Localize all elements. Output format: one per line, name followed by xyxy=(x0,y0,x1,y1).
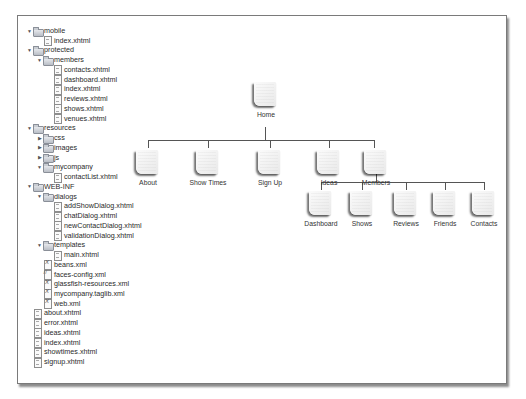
tree-item-label: resources xyxy=(44,123,76,132)
tree-item-label: members xyxy=(54,55,84,64)
tree-folder-row[interactable]: ▼mobile xyxy=(26,26,65,36)
node-contacts: Contacts xyxy=(459,189,509,227)
tree-file-row[interactable]: error.xhtml xyxy=(33,318,78,328)
file-icon xyxy=(53,173,62,181)
tree-folder-row[interactable]: ▼WEB-INF xyxy=(26,181,74,191)
disclosure-expanded-icon[interactable]: ▼ xyxy=(26,27,33,35)
file-icon xyxy=(53,212,62,220)
disclosure-expanded-icon[interactable]: ▼ xyxy=(26,46,33,54)
tree-file-row[interactable]: faces-config.xml xyxy=(43,269,106,279)
node-home: Home xyxy=(241,80,291,118)
file-icon xyxy=(53,202,62,210)
tree-file-row[interactable]: chatDialog.xhtml xyxy=(53,211,117,221)
tree-file-row[interactable]: validationDialog.xhtml xyxy=(53,230,134,240)
node-show-times: Show Times xyxy=(183,148,233,186)
disclosure-collapsed-icon[interactable]: ▶ xyxy=(36,134,43,142)
page-icon xyxy=(432,189,458,217)
tree-file-row[interactable]: main.xhtml xyxy=(53,250,99,260)
node-ideas: Ideas xyxy=(304,148,354,186)
tree-file-row[interactable]: signup.xhtml xyxy=(33,357,84,367)
connector-line xyxy=(374,140,375,148)
file-icon xyxy=(53,65,62,73)
tree-file-row[interactable]: ideas.xhtml xyxy=(33,327,80,337)
tree-file-row[interactable]: about.xhtml xyxy=(33,308,81,318)
tree-file-row[interactable]: glassfish-resources.xml xyxy=(43,279,129,289)
page-icon xyxy=(195,148,221,176)
node-about: About xyxy=(123,148,173,186)
tree-folder-row[interactable]: ▼dialogs xyxy=(36,191,77,201)
tree-item-label: beans.xml xyxy=(54,260,87,269)
tree-file-row[interactable]: addShowDialog.xhtml xyxy=(53,201,134,211)
tree-folder-row[interactable]: ▶images xyxy=(36,142,77,152)
file-icon xyxy=(53,85,62,93)
tree-item-label: web.xml xyxy=(54,299,80,308)
tree-file-row[interactable]: dashboard.xhtml xyxy=(53,74,117,84)
node-label: Shows xyxy=(352,220,372,227)
tree-file-row[interactable]: beans.xml xyxy=(43,259,87,269)
tree-folder-row[interactable]: ▼mycompany xyxy=(36,162,93,172)
tree-file-row[interactable]: reviews.xhtml xyxy=(53,94,108,104)
tree-item-label: mycompany xyxy=(54,162,93,171)
tree-item-label: templates xyxy=(54,240,85,249)
disclosure-expanded-icon[interactable]: ▼ xyxy=(36,56,43,64)
tree-item-label: chatDialog.xhtml xyxy=(64,211,117,220)
tree-folder-row[interactable]: ▼resources xyxy=(26,123,76,133)
node-label: Contacts xyxy=(471,220,498,227)
tree-file-row[interactable]: shows.xhtml xyxy=(53,103,104,113)
tree-file-row[interactable]: web.xml xyxy=(43,298,80,308)
tree-file-row[interactable]: venues.xhtml xyxy=(53,113,106,123)
file-icon xyxy=(53,104,62,112)
file-icon xyxy=(33,348,42,356)
tree-folder-row[interactable]: ▼templates xyxy=(36,240,85,250)
disclosure-expanded-icon[interactable]: ▼ xyxy=(36,163,43,171)
disclosure-collapsed-icon[interactable]: ▶ xyxy=(36,153,43,161)
connector-line xyxy=(148,140,149,148)
node-label: Friends xyxy=(434,220,457,227)
disclosure-collapsed-icon[interactable]: ▶ xyxy=(36,143,43,151)
tree-folder-row[interactable]: ▼members xyxy=(36,55,84,65)
xml-file-icon xyxy=(43,270,52,278)
disclosure-expanded-icon[interactable]: ▼ xyxy=(36,241,43,249)
tree-item-label: contacts.xhtml xyxy=(64,65,110,74)
folder-icon xyxy=(33,124,42,132)
tree-folder-row[interactable]: ▶js xyxy=(36,152,59,162)
page-icon xyxy=(471,189,497,217)
tree-item-label: WEB-INF xyxy=(44,182,74,191)
xml-file-icon xyxy=(43,280,52,288)
page-icon xyxy=(257,148,283,176)
tree-item-label: addShowDialog.xhtml xyxy=(64,201,134,210)
disclosure-expanded-icon[interactable]: ▼ xyxy=(36,192,43,200)
tree-folder-row[interactable]: ▶css xyxy=(36,133,65,143)
tree-file-row[interactable]: contactList.xhtml xyxy=(53,172,118,182)
node-label: About xyxy=(139,179,157,186)
node-label: Sign Up xyxy=(258,179,282,186)
tree-item-label: faces-config.xml xyxy=(54,270,106,279)
tree-item-label: glassfish-resources.xml xyxy=(54,279,129,288)
connector-line xyxy=(148,140,375,141)
tree-item-label: mobile xyxy=(44,26,65,35)
disclosure-expanded-icon[interactable]: ▼ xyxy=(26,124,33,132)
file-icon xyxy=(33,309,42,317)
tree-file-row[interactable]: index.xhtml xyxy=(33,337,80,347)
tree-file-row[interactable]: showtimes.xhtml xyxy=(33,347,97,357)
tree-file-row[interactable]: contacts.xhtml xyxy=(53,64,110,74)
tree-file-row[interactable]: index.xhtml xyxy=(43,35,90,45)
tree-file-row[interactable]: index.xhtml xyxy=(53,84,100,94)
tree-item-label: about.xhtml xyxy=(44,308,81,317)
connector-line xyxy=(208,140,209,148)
tree-folder-row[interactable]: ▼protected xyxy=(26,45,74,55)
disclosure-expanded-icon[interactable]: ▼ xyxy=(26,182,33,190)
node-shows: Shows xyxy=(337,189,387,227)
folder-icon xyxy=(33,182,42,190)
file-icon xyxy=(53,95,62,103)
folder-icon xyxy=(43,163,52,171)
file-icon xyxy=(53,75,62,83)
tree-item-label: protected xyxy=(44,45,74,54)
tree-item-label: index.xhtml xyxy=(54,36,90,45)
connector-line xyxy=(329,140,330,148)
tree-file-row[interactable]: newContactDialog.xhtml xyxy=(53,220,142,230)
tree-item-label: signup.xhtml xyxy=(44,357,84,366)
tree-item-label: showtimes.xhtml xyxy=(44,347,97,356)
tree-file-row[interactable]: mycompany.taglib.xml xyxy=(43,288,125,298)
page-icon xyxy=(135,148,161,176)
